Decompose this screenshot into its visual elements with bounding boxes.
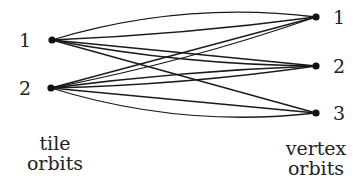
right-group-label-line2: orbits: [276, 158, 356, 178]
node-L2: [47, 84, 54, 91]
left-group-label: tile orbits: [20, 133, 90, 173]
right-node-label-1: 1: [333, 8, 345, 27]
node-R3: [312, 109, 319, 116]
node-R2: [312, 62, 319, 69]
left-node-label-1: 1: [19, 31, 31, 50]
node-R1: [312, 13, 319, 20]
node-L1: [48, 36, 55, 43]
left-node-label-2: 2: [19, 79, 31, 98]
edges-group: [51, 12, 316, 117]
left-group-label-line1: tile: [20, 133, 90, 153]
right-group-label-line1: vertex: [276, 138, 356, 158]
edge-L1-R1: [52, 17, 316, 40]
right-node-label-2: 2: [333, 57, 345, 76]
left-group-label-line2: orbits: [20, 153, 90, 173]
edge-L2-R3: [51, 88, 316, 113]
edge-L1-R1: [52, 12, 316, 40]
right-group-label: vertex orbits: [276, 138, 356, 178]
right-node-label-3: 3: [333, 104, 345, 123]
edge-L2-R1: [51, 17, 316, 88]
